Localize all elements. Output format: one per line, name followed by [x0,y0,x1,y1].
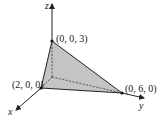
plane-face [41,41,122,93]
label-z-intercept: (0, 0, 3) [56,33,88,45]
y-axis-label: y [138,100,144,111]
tetrahedron-diagram: (0, 0, 3) (2, 0, 0) (0, 6, 0) z x y [0,0,157,121]
point-z-intercept [50,39,53,42]
x-axis [16,88,41,110]
z-axis-label: z [44,0,49,11]
label-y-intercept: (0, 6, 0) [125,83,157,95]
label-x-intercept: (2, 0, 0) [12,79,44,91]
point-y-intercept [120,91,123,94]
x-axis-label: x [7,106,13,117]
